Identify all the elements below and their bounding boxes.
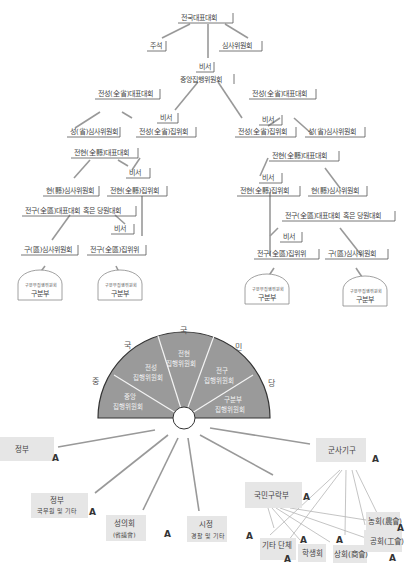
svg-text:구분부집행위원회: 구분부집행위원회 bbox=[105, 282, 137, 288]
svg-text:학생회: 학생회 bbox=[302, 548, 323, 558]
svg-text:현(縣)심사위원회: 현(縣)심사위원회 bbox=[46, 186, 94, 195]
svg-text:구분부: 구분부 bbox=[224, 396, 242, 404]
right-district-audit: 구(區)심사위원회 bbox=[325, 249, 388, 259]
node-secretary: 비서 bbox=[196, 62, 214, 72]
svg-text:비서: 비서 bbox=[283, 232, 295, 241]
left-district-congress: 전구(全區)대표대회 혹은 당원대회 bbox=[22, 206, 136, 216]
target-student-union: A 학생회 bbox=[298, 535, 326, 562]
svg-text:성의회: 성의회 bbox=[114, 518, 135, 528]
svg-text:집행위원회: 집행위원회 bbox=[113, 402, 143, 411]
svg-text:심사위원회: 심사위원회 bbox=[222, 41, 252, 50]
svg-text:성(省)심사위원회: 성(省)심사위원회 bbox=[308, 127, 356, 136]
svg-text:비서: 비서 bbox=[160, 113, 172, 122]
svg-text:A: A bbox=[246, 531, 253, 541]
svg-text:전구(全區)집위위: 전구(全區)집위위 bbox=[257, 249, 306, 258]
right-county-executive: 전현(全縣)집위회 bbox=[237, 186, 300, 196]
left-branch-unit-2: 구분부집행위원회 구분부 bbox=[98, 270, 142, 300]
svg-text:전현: 전현 bbox=[178, 349, 190, 358]
svg-text:구분부: 구분부 bbox=[258, 294, 277, 302]
left-district-secretary: 비서 bbox=[111, 224, 134, 234]
right-county-congress: 전현(全縣)대표대회 bbox=[269, 151, 339, 161]
svg-text:A: A bbox=[300, 535, 307, 545]
left-province-executive: 전성(全省)집위회 bbox=[136, 127, 196, 137]
svg-text:구분부: 구분부 bbox=[356, 296, 375, 304]
ring-char-5: 당 bbox=[268, 378, 276, 388]
svg-text:구(區)심사위원회: 구(區)심사위원회 bbox=[328, 249, 376, 258]
node-national-congress: 전국대표대회 bbox=[178, 13, 233, 23]
target-labor-union: 공회(工會) A bbox=[364, 530, 404, 563]
kmt-organization-diagram: 전국대표대회 주석 심사위원회 비서 중앙집행위원회 전성(全省)대표대회 비서… bbox=[0, 0, 409, 568]
right-province-congress: 전성(全省)대표대회 bbox=[249, 89, 316, 99]
left-county-executive: 전현(全縣)집위회 bbox=[107, 186, 167, 196]
svg-text:전구(全區)집위위: 전구(全區)집위위 bbox=[90, 245, 139, 254]
svg-text:현(縣)심사위원회: 현(縣)심사위원회 bbox=[311, 186, 359, 195]
svg-text:비서: 비서 bbox=[262, 115, 274, 124]
svg-text:구분부집행위원회: 구분부집행위원회 bbox=[350, 288, 382, 294]
fan-chart: 중 국 국 민 당 중앙 집행위원회 전성 집행위원회 전현 집행위원회 전구 … bbox=[92, 326, 276, 429]
svg-text:전국대표대회: 전국대표대회 bbox=[181, 13, 217, 22]
svg-text:군사기구: 군사기구 bbox=[328, 446, 356, 455]
svg-text:집행위원회: 집행위원회 bbox=[204, 376, 234, 385]
svg-text:A: A bbox=[303, 492, 310, 502]
svg-text:전구(全區)대표대회 혹은 당원대회: 전구(全區)대표대회 혹은 당원대회 bbox=[25, 206, 121, 215]
target-citizens-club: 국민구락부 A bbox=[245, 482, 310, 508]
right-province-executive: 전성(全省)집위회 bbox=[235, 127, 296, 137]
svg-text:정부: 정부 bbox=[50, 495, 64, 505]
node-central-executive: 중앙집행위원회 bbox=[180, 74, 234, 84]
svg-text:전구(全區)대표대회 혹은 당원대회: 전구(全區)대표대회 혹은 당원대회 bbox=[285, 211, 381, 220]
ring-char-2: 국 bbox=[124, 341, 131, 350]
left-county-congress: 전현(全縣)대표대회 bbox=[71, 148, 138, 158]
target-farmers-association: 농회(農會) A bbox=[366, 512, 404, 533]
left-district-audit: 구(區)심사위원회 bbox=[21, 245, 78, 255]
svg-text:전현(全縣)집위회: 전현(全縣)집위회 bbox=[110, 186, 159, 195]
svg-text:집행위원회: 집행위원회 bbox=[133, 373, 163, 382]
svg-text:구분부집행위원회: 구분부집행위원회 bbox=[252, 286, 284, 292]
target-other-groups: 기타 단체 A bbox=[260, 538, 296, 564]
right-branch-unit-2: 구분부집행위원회 구분부 bbox=[343, 276, 387, 306]
svg-text:전성(全省)대표대회: 전성(全省)대표대회 bbox=[98, 89, 153, 98]
left-province-audit: 성(省)심사위원회 bbox=[67, 127, 120, 137]
svg-text:비서: 비서 bbox=[199, 62, 211, 71]
target-military: 군사기구 A bbox=[316, 438, 379, 464]
left-province-secretary: 비서 bbox=[157, 113, 178, 123]
svg-text:기타 단체: 기타 단체 bbox=[262, 540, 292, 550]
svg-text:중앙: 중앙 bbox=[124, 393, 136, 401]
svg-text:전성: 전성 bbox=[145, 363, 157, 372]
svg-text:A: A bbox=[89, 507, 96, 517]
right-county-secretary: 비서 bbox=[259, 173, 282, 183]
svg-text:전구: 전구 bbox=[216, 366, 228, 375]
svg-text:전성(全省)집위회: 전성(全省)집위회 bbox=[238, 127, 287, 136]
svg-text:구(區)심사위원회: 구(區)심사위원회 bbox=[24, 245, 72, 254]
svg-text:성(省)심사위원회: 성(省)심사위원회 bbox=[70, 127, 118, 136]
svg-text:A: A bbox=[164, 529, 171, 539]
left-branch-unit-1: 구분부집행위원회 구분부 bbox=[18, 270, 62, 300]
svg-text:시정: 시정 bbox=[199, 519, 213, 529]
svg-text:전성(全省)집위회: 전성(全省)집위회 bbox=[139, 127, 188, 136]
node-audit-committee: 심사위원회 bbox=[219, 41, 262, 51]
svg-text:공회(工會): 공회(工會) bbox=[370, 536, 404, 546]
svg-text:(省議會): (省議會) bbox=[113, 531, 136, 539]
target-government: 정부 A bbox=[0, 437, 59, 463]
svg-text:국무원 및 기타: 국무원 및 기타 bbox=[37, 507, 77, 515]
svg-text:구분부: 구분부 bbox=[31, 290, 50, 298]
svg-text:전현(全縣)집위회: 전현(全縣)집위회 bbox=[240, 186, 289, 195]
target-municipal: 시정 경찰 및 기타 A bbox=[187, 516, 253, 542]
right-county-audit: 현(縣)심사위원회 bbox=[308, 186, 367, 196]
svg-text:주석: 주석 bbox=[150, 41, 162, 50]
right-district-executive: 전구(全區)집위위 bbox=[254, 249, 319, 259]
svg-text:비서: 비서 bbox=[129, 168, 141, 177]
svg-text:A: A bbox=[284, 554, 291, 564]
left-province-congress: 전성(全省)대표대회 bbox=[95, 89, 160, 99]
node-chairman: 주석 bbox=[147, 41, 166, 51]
svg-text:국민구락부: 국민구락부 bbox=[254, 490, 289, 500]
svg-text:A: A bbox=[52, 453, 59, 463]
ring-char-3: 국 bbox=[180, 326, 187, 335]
svg-text:전현(全縣)대표대회: 전현(全縣)대표대회 bbox=[74, 148, 129, 157]
ring-char-1: 중 bbox=[92, 377, 99, 386]
svg-text:비서: 비서 bbox=[262, 173, 274, 182]
svg-text:집행위원회: 집행위원회 bbox=[166, 359, 196, 368]
svg-text:전현(全縣)대표대회: 전현(全縣)대표대회 bbox=[272, 151, 327, 160]
right-province-secretary: 비서 bbox=[259, 115, 282, 125]
svg-text:집행위원회: 집행위원회 bbox=[215, 405, 245, 414]
left-county-secretary: 비서 bbox=[126, 168, 150, 178]
